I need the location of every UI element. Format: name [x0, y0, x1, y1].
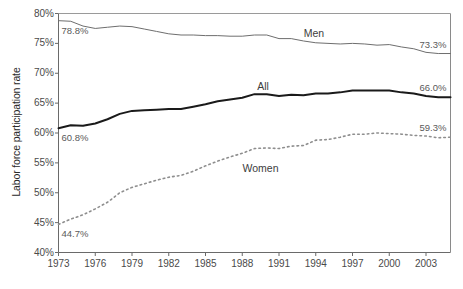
chart-container: Labor force participation rate 40%45%50%…	[0, 0, 463, 289]
end-value-label-all: 66.0%	[420, 82, 447, 93]
series-line-women	[59, 133, 451, 224]
start-value-label-men: 78.8%	[62, 25, 89, 36]
series-label-all: All	[257, 80, 269, 92]
plot-area	[0, 0, 463, 289]
series-label-women: Women	[243, 162, 279, 174]
series-line-all	[59, 91, 451, 129]
start-value-label-all: 60.8%	[62, 132, 89, 143]
series-label-men: Men	[304, 27, 324, 39]
start-value-label-women: 44.7%	[62, 228, 89, 239]
end-value-label-men: 73.3%	[420, 39, 447, 50]
series-line-men	[59, 21, 451, 54]
end-value-label-women: 59.3%	[420, 122, 447, 133]
